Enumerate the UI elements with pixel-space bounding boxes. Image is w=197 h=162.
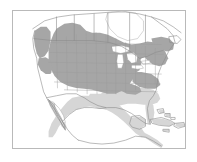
range-map-figure: Primary range Secondary range Absent: [0, 0, 197, 162]
lake-erie: [132, 65, 144, 69]
north-america-range-map: [13, 11, 185, 148]
map-frame: [12, 10, 186, 149]
